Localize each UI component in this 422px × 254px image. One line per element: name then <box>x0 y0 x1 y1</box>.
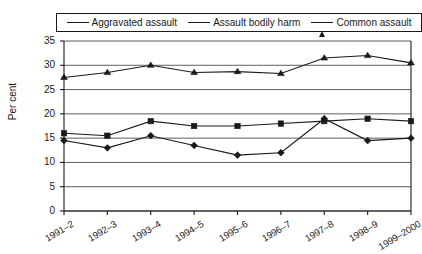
chart-container: Aggravated assault Assault bodily harm C… <box>0 0 422 254</box>
data-point-diamond[interactable] <box>104 144 111 151</box>
data-point-square[interactable] <box>191 123 196 128</box>
data-point-square[interactable] <box>148 118 153 123</box>
data-point-square[interactable] <box>278 121 283 126</box>
data-point-triangle[interactable] <box>234 68 241 73</box>
data-point-square[interactable] <box>322 118 327 123</box>
data-point-triangle[interactable] <box>147 62 154 67</box>
series-line-common-assault <box>64 56 411 78</box>
data-point-square[interactable] <box>61 131 66 136</box>
data-point-diamond[interactable] <box>191 142 198 149</box>
data-point-square[interactable] <box>408 118 413 123</box>
data-point-diamond[interactable] <box>234 152 241 159</box>
data-point-diamond[interactable] <box>408 135 415 142</box>
data-point-square[interactable] <box>365 116 370 121</box>
data-point-square[interactable] <box>105 133 110 138</box>
data-point-triangle[interactable] <box>364 52 371 57</box>
data-point-square[interactable] <box>235 123 240 128</box>
plot-area <box>0 0 422 254</box>
